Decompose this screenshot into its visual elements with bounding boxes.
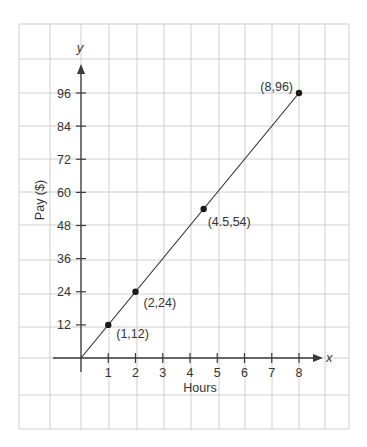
- x-tick-label: 2: [132, 366, 139, 380]
- data-point: [105, 322, 111, 328]
- y-axis-arrow-icon: [77, 64, 85, 74]
- tick-labels: 122436486072849612345678: [57, 87, 302, 381]
- x-tick-label: 1: [105, 366, 112, 380]
- x-axis-variable: x: [325, 350, 333, 365]
- data-point: [132, 289, 138, 295]
- pay-vs-hours-chart: 122436486072849612345678 (1,12)(2,24)(4.…: [0, 0, 367, 447]
- x-tick-label: 8: [296, 366, 303, 380]
- data-point-label: (2,24): [144, 296, 177, 310]
- y-tick-label: 96: [57, 87, 71, 101]
- x-tick-label: 6: [241, 366, 248, 380]
- y-axis-variable: y: [76, 40, 85, 55]
- y-tick-label: 24: [57, 285, 71, 299]
- x-tick-label: 3: [159, 366, 166, 380]
- x-tick-label: 7: [268, 366, 275, 380]
- y-tick-label: 60: [57, 186, 71, 200]
- y-tick-label: 48: [57, 219, 71, 233]
- y-axis-title: Pay ($): [33, 180, 47, 220]
- x-tick-label: 5: [214, 366, 221, 380]
- x-axis-title: Hours: [183, 381, 216, 395]
- data-point-label: (8,96): [260, 80, 293, 94]
- data-point-label: (4.5,54): [208, 215, 251, 229]
- data-point: [200, 206, 206, 212]
- axes: [53, 64, 323, 372]
- x-axis-arrow-icon: [313, 354, 323, 362]
- y-tick-label: 84: [57, 120, 71, 134]
- data-point-label: (1,12): [116, 327, 149, 341]
- x-tick-label: 4: [187, 366, 194, 380]
- y-tick-label: 72: [57, 153, 71, 167]
- y-tick-label: 12: [57, 318, 71, 332]
- y-tick-label: 36: [57, 252, 71, 266]
- data-point: [296, 90, 302, 96]
